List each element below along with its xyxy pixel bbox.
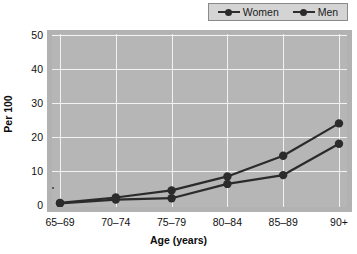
x-tick-label: 65–69 (35, 217, 85, 228)
legend-item-women[interactable]: Women (218, 7, 279, 18)
y-tick-label: 40 (3, 64, 43, 75)
y-tick-label: 50 (3, 30, 43, 41)
data-point (335, 119, 343, 127)
legend-item-men[interactable]: Men (293, 7, 338, 18)
y-tick-label: 10 (3, 166, 43, 177)
x-tick-label: 85–89 (258, 217, 308, 228)
series-layer (52, 34, 347, 207)
data-point (112, 195, 120, 203)
data-point (223, 172, 231, 180)
chart-legend: Women Men (208, 3, 348, 21)
line-chart: Women Men 01020304050 Per 100 65–6970–74… (0, 0, 357, 254)
x-tick-label: 90+ (314, 217, 357, 228)
x-tick-label: 70–74 (91, 217, 141, 228)
legend-marker-women-icon (218, 8, 240, 17)
data-point (167, 194, 175, 202)
x-tick-label: 80–84 (202, 217, 252, 228)
series-line-men (60, 144, 339, 204)
plot-inner (52, 34, 347, 207)
legend-label-men: Men (318, 7, 338, 18)
y-axis-title: Per 100 (2, 84, 14, 144)
legend-label-women: Women (243, 7, 279, 18)
legend-marker-men-icon (293, 8, 315, 17)
y-tick-label: 0 (3, 200, 43, 211)
data-point (167, 186, 175, 194)
data-point (223, 180, 231, 188)
data-point (279, 152, 287, 160)
data-point (335, 140, 343, 148)
data-point (279, 171, 287, 179)
x-tick-label: 75–79 (147, 217, 197, 228)
plot-area (47, 30, 352, 212)
x-axis-title: Age (years) (0, 234, 357, 246)
scan-artifact (52, 187, 54, 189)
